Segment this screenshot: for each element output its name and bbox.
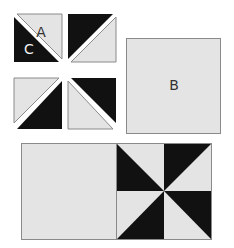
label-c: C <box>24 41 34 57</box>
quilt-diagram: A C B <box>0 0 234 248</box>
label-b: B <box>169 77 179 93</box>
assembled-row <box>22 144 212 240</box>
hst-group: A C <box>14 14 116 129</box>
label-a: A <box>36 24 46 40</box>
pinwheel-block <box>117 144 212 240</box>
plain-square <box>22 144 117 240</box>
hst-unit-bottom-right <box>68 78 116 129</box>
plain-square-b: B <box>127 39 221 134</box>
hst-unit-bottom-left <box>14 78 62 129</box>
hst-unit-top-right <box>68 14 116 62</box>
